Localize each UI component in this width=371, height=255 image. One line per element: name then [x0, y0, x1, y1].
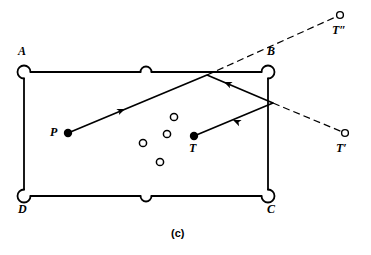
target-ball-label-t: T — [189, 142, 196, 154]
pocket-corner-c — [262, 190, 275, 203]
shot-path — [68, 75, 273, 136]
target-ball-T — [190, 132, 198, 140]
arrowhead-rail-to-rail-icon — [223, 79, 233, 88]
obstacle-balls — [139, 113, 177, 165]
corner-label-d: D — [18, 203, 27, 215]
obstacle-ball-1 — [170, 113, 177, 120]
figure-caption: (c) — [171, 228, 184, 239]
virtual-ball-T-prime — [342, 130, 349, 137]
pocket-top-middle — [141, 67, 152, 72]
billiards-figure: A B C D P T T″ T′ (c) — [0, 0, 371, 255]
corner-label-c: C — [267, 203, 275, 215]
corner-label-a: A — [18, 45, 26, 57]
corner-label-b: B — [267, 45, 275, 57]
virtual-ball-T-double-prime — [337, 12, 344, 19]
obstacle-ball-4 — [156, 158, 163, 165]
cue-ball-label-p: P — [50, 126, 57, 138]
playing-balls — [64, 129, 198, 140]
pocket-corner-b — [262, 66, 275, 79]
pocket-bottom-middle — [141, 196, 152, 202]
virtual-label-t-prime: T′ — [336, 142, 347, 154]
pocket-corner-a — [18, 66, 31, 79]
obstacle-ball-3 — [139, 139, 146, 146]
reflection-line-to-T-prime-icon — [273, 103, 342, 132]
shot-path-line — [68, 75, 273, 136]
pocket-corner-d — [18, 190, 31, 203]
obstacle-ball-2 — [163, 130, 170, 137]
cue-ball-P — [64, 129, 72, 137]
virtual-label-t-double-prime: T″ — [332, 24, 346, 36]
arrowhead-outbound-icon — [116, 106, 126, 115]
